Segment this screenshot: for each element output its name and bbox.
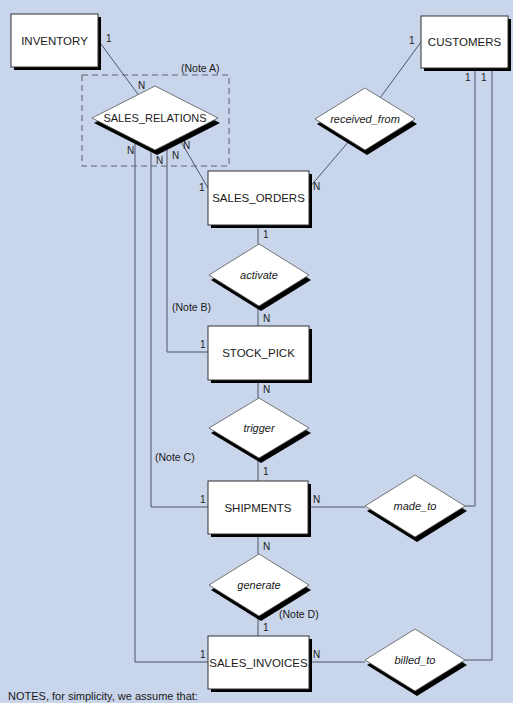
cardinality-label: 1 [409, 35, 415, 46]
entity-inventory: INVENTORY [11, 14, 101, 70]
cardinality-label: N [172, 150, 179, 161]
entity-sales-invoices: SALES_INVOICES [208, 636, 312, 692]
cardinality-label: N [263, 384, 270, 395]
line-sales-relations-sales-invoices [135, 140, 208, 662]
cardinality-label: N [138, 80, 145, 91]
entity-label: SALES_INVOICES [209, 657, 308, 669]
relationship-label: received_from [330, 113, 400, 125]
cardinality-label: 1 [263, 466, 269, 477]
relationship-activate: activate [209, 244, 311, 311]
relationship-trigger: trigger [209, 398, 311, 463]
cardinality-label: 1 [263, 622, 269, 633]
relationship-label: generate [237, 579, 280, 591]
cardinality-label: 1 [200, 649, 206, 660]
cardinality-label: 1 [199, 182, 205, 193]
cardinality-label: N [313, 649, 320, 660]
line-sales-relations-stock-pick [167, 140, 208, 352]
entity-stock-pick: STOCK_PICK [208, 326, 312, 383]
note-label: (Note B) [172, 301, 211, 313]
cardinality-label: N [263, 313, 270, 324]
relationship-label: billed_to [395, 654, 436, 666]
entity-label: CUSTOMERS [428, 36, 502, 48]
entity-sales-orders: SALES_ORDERS [208, 171, 312, 228]
relationship-label: trigger [243, 422, 276, 434]
relationship-label: activate [240, 269, 278, 281]
note-label: (Note A) [181, 62, 220, 74]
line-billed-to-customers [465, 68, 492, 660]
cardinality-label: 1 [465, 72, 471, 83]
entity-label: INVENTORY [21, 35, 88, 47]
relationship-billed-to: billed_to [365, 629, 467, 696]
cardinality-label: 1 [200, 494, 206, 505]
line-inventory-sales-relations [98, 40, 140, 97]
cardinality-label: 1 [200, 339, 206, 350]
entity-shipments: SHIPMENTS [208, 481, 311, 537]
relationship-label: SALES_RELATIONS [103, 112, 206, 124]
cardinality-label: 1 [106, 33, 112, 44]
entity-label: SALES_ORDERS [212, 192, 305, 204]
relationship-made-to: made_to [365, 475, 467, 542]
cardinality-label: N [183, 140, 190, 151]
cardinality-label: 1 [481, 72, 487, 83]
cardinality-label: N [313, 494, 320, 505]
line-made-to-customers [465, 68, 475, 506]
cardinality-label: N [313, 181, 320, 192]
footer-notes-text: NOTES, for simplicity, we assume that: [8, 690, 198, 702]
line-customers-received-from [380, 42, 421, 98]
entity-label: STOCK_PICK [222, 347, 295, 359]
er-diagram: SALES_RELATIONSreceived_fromactivatetrig… [0, 0, 513, 703]
cardinality-label: 1 [263, 229, 269, 240]
cardinality-label: N [156, 155, 163, 166]
note-label: (Note D) [279, 608, 319, 620]
note-label: (Note C) [155, 451, 195, 463]
relationship-received-from: received_from [315, 88, 417, 155]
entity-label: SHIPMENTS [224, 502, 291, 514]
entity-customers: CUSTOMERS [421, 16, 511, 71]
cardinality-label: N [263, 541, 270, 552]
relationship-sales-relations: SALES_RELATIONS [92, 86, 220, 155]
relationship-label: made_to [394, 500, 437, 512]
cardinality-label: N [127, 145, 134, 156]
